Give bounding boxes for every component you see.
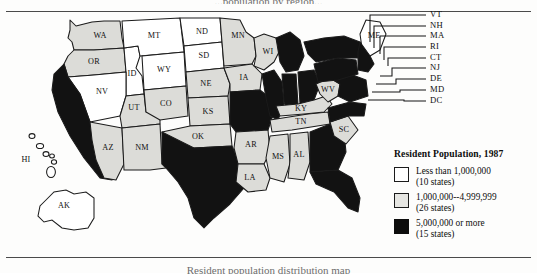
leader-label-MD: MD: [430, 85, 444, 94]
leader-label-MA: MA: [430, 31, 444, 40]
state-label-AR: AR: [245, 140, 257, 149]
state-label-AL: AL: [293, 150, 304, 159]
state-label-NM: NM: [135, 143, 149, 152]
state-label-OR: OR: [88, 57, 100, 66]
legend-count-mid: (26 states): [416, 203, 497, 214]
state-label-AK: AK: [58, 201, 70, 210]
legend-count-high: (15 states): [416, 229, 485, 240]
legend-row-high[interactable]: 5,000,000 or more (15 states): [392, 218, 535, 239]
state-label-KS: KS: [203, 107, 214, 116]
state-label-KY: KY: [295, 104, 307, 113]
state-label-OK: OK: [192, 132, 204, 141]
legend-count-low: (10 states): [416, 177, 491, 188]
legend-row-mid[interactable]: 1,000,000--4,999,999 (26 states): [392, 192, 535, 213]
state-FL[interactable]: [310, 170, 360, 212]
state-MN[interactable]: [220, 18, 256, 66]
legend-range-low: Less than 1,000,000: [416, 166, 491, 177]
bottom-divider: [6, 257, 531, 258]
leader-line-callouts: VT NH MA RI CT NJ DE MD DC: [330, 8, 460, 112]
legend-text-high: 5,000,000 or more (15 states): [416, 218, 485, 239]
state-label-TN: TN: [295, 117, 306, 126]
state-label-UT: UT: [128, 103, 139, 112]
hawaii-inset[interactable]: [29, 134, 57, 178]
state-label-IA: IA: [239, 73, 248, 82]
leader-label-RI: RI: [430, 42, 439, 51]
white-swatch: [394, 167, 409, 182]
state-label-MT: MT: [148, 31, 161, 40]
state-MI[interactable]: [276, 32, 304, 72]
state-label-MN: MN: [231, 31, 245, 40]
light-gray-swatch: [394, 193, 409, 208]
state-label-SD: SD: [199, 51, 210, 60]
legend-text-mid: 1,000,000--4,999,999 (26 states): [416, 192, 497, 213]
state-label-WI: WI: [263, 47, 274, 56]
black-swatch: [394, 219, 409, 234]
state-label-MS: MS: [272, 152, 284, 161]
state-label-NE: NE: [200, 79, 211, 88]
map-legend: Resident Population, 1987 Less than 1,00…: [392, 148, 535, 245]
state-label-ID: ID: [127, 69, 136, 78]
figure-caption-bottom: Resident population distribution map: [0, 264, 537, 274]
state-label-SC: SC: [339, 125, 350, 134]
leader-label-NH: NH: [430, 21, 443, 30]
legend-range-mid: 1,000,000--4,999,999: [416, 192, 497, 203]
state-label-WA: WA: [93, 31, 106, 40]
state-label-WY: WY: [157, 65, 171, 74]
legend-text-low: Less than 1,000,000 (10 states): [416, 166, 491, 187]
figure-caption-top: ...population by region...: [0, 0, 537, 4]
legend-title: Resident Population, 1987: [394, 148, 535, 159]
state-label-LA: LA: [244, 173, 255, 182]
leader-label-CT: CT: [430, 53, 442, 62]
state-label-AZ: AZ: [102, 143, 113, 152]
leader-label-NJ: NJ: [430, 63, 440, 72]
state-label-ND: ND: [196, 27, 208, 36]
state-label-NV: NV: [96, 87, 108, 96]
legend-range-high: 5,000,000 or more: [416, 218, 485, 229]
legend-row-low[interactable]: Less than 1,000,000 (10 states): [392, 166, 535, 187]
state-label-CO: CO: [160, 99, 172, 108]
state-label-HI: HI: [21, 155, 30, 164]
state-AK[interactable]: [38, 190, 94, 230]
leader-label-DE: DE: [430, 74, 442, 83]
leader-label-VT: VT: [430, 10, 442, 19]
leader-label-DC: DC: [430, 96, 443, 105]
